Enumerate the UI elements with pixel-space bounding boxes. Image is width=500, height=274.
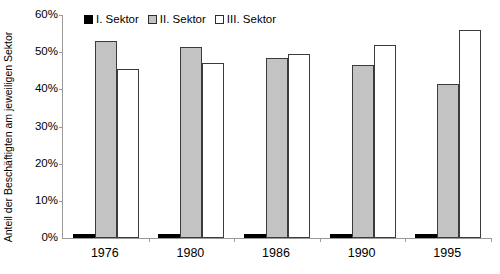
y-tick-label: 50% bbox=[20, 46, 58, 58]
bar-1990-series-2 bbox=[352, 65, 374, 238]
legend-label: III. Sektor bbox=[227, 14, 276, 26]
bar-1995-series-2 bbox=[437, 84, 459, 238]
legend-swatch-icon bbox=[148, 15, 157, 24]
x-tick-mark bbox=[320, 238, 321, 242]
y-tick-label: 30% bbox=[20, 121, 58, 133]
y-tick-label: 60% bbox=[20, 9, 58, 21]
bar-group bbox=[149, 15, 235, 238]
x-tick-mark bbox=[149, 238, 150, 242]
legend-swatch-icon bbox=[215, 15, 224, 24]
x-tick-mark bbox=[234, 238, 235, 242]
legend-swatch-icon bbox=[84, 15, 93, 24]
bar-1995-series-3 bbox=[459, 30, 481, 238]
y-tick-label: 10% bbox=[20, 195, 58, 207]
legend-entry-series-1[interactable]: I. Sektor bbox=[84, 14, 139, 26]
y-tick-label: 20% bbox=[20, 158, 58, 170]
bar-1986-series-3 bbox=[288, 54, 310, 238]
bar-1986-series-1 bbox=[244, 234, 266, 238]
bar-1976-series-2 bbox=[95, 41, 117, 238]
bar-1995-series-1 bbox=[415, 234, 437, 238]
bar-1980-series-1 bbox=[158, 234, 180, 238]
bar-1990-series-1 bbox=[330, 234, 352, 238]
y-tick-label: 40% bbox=[20, 84, 58, 96]
chart-legend: I. SektorII. SektorIII. Sektor bbox=[84, 14, 276, 26]
legend-label: II. Sektor bbox=[160, 14, 206, 26]
plot-area bbox=[62, 15, 491, 239]
x-tick-label: 1990 bbox=[348, 246, 376, 260]
y-tick-label: 0% bbox=[20, 232, 58, 244]
x-tick-mark bbox=[491, 238, 492, 242]
bar-1990-series-3 bbox=[374, 45, 396, 238]
bar-group bbox=[320, 15, 406, 238]
x-tick-label: 1976 bbox=[91, 246, 119, 260]
bar-1976-series-3 bbox=[117, 69, 139, 238]
x-tick-label: 1995 bbox=[433, 246, 461, 260]
legend-label: I. Sektor bbox=[96, 14, 139, 26]
y-axis-title: Anteil der Beschäftigten am jeweiligen S… bbox=[0, 0, 16, 274]
plot-inner bbox=[63, 15, 491, 238]
y-axis-tick-labels: 0%10%20%30%40%50%60% bbox=[16, 0, 58, 274]
x-tick-label: 1986 bbox=[262, 246, 290, 260]
bar-chart: Anteil der Beschäftigten am jeweiligen S… bbox=[0, 0, 500, 274]
bar-group bbox=[63, 15, 149, 238]
x-tick-label: 1980 bbox=[176, 246, 204, 260]
bar-group bbox=[234, 15, 320, 238]
bar-1980-series-3 bbox=[202, 63, 224, 238]
bar-group bbox=[405, 15, 491, 238]
x-tick-mark bbox=[405, 238, 406, 242]
bar-1986-series-2 bbox=[266, 58, 288, 238]
legend-entry-series-3[interactable]: III. Sektor bbox=[215, 14, 276, 26]
bar-1976-series-1 bbox=[73, 234, 95, 238]
legend-entry-series-2[interactable]: II. Sektor bbox=[148, 14, 206, 26]
bar-1980-series-2 bbox=[180, 47, 202, 238]
